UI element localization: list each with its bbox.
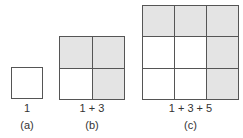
cell-c-r1-c2-shaded: [207, 37, 238, 67]
square-grid-a: [11, 67, 43, 99]
square-grid-c: [142, 5, 239, 100]
cell-c-r0-c1-shaded: [175, 6, 206, 36]
caption-c: (c): [142, 119, 239, 131]
cell-c-r0-c0-shaded: [143, 6, 174, 36]
sum-label-c: 1 + 3 + 5: [142, 102, 239, 114]
cell-c-r0-c2-shaded: [207, 6, 238, 36]
cell-c-r2-c0: [143, 69, 174, 99]
square-grid-b: [59, 36, 125, 100]
cell-c-r1-c0: [143, 37, 174, 67]
sum-label-a: 1: [11, 102, 43, 114]
cell-a-r0-c0: [12, 68, 42, 98]
cell-c-r1-c1: [175, 37, 206, 67]
caption-b: (b): [59, 119, 125, 131]
cell-b-r1-c1-shaded: [93, 69, 125, 100]
cell-b-r0-c0-shaded: [60, 37, 92, 68]
cell-c-r2-c2-shaded: [207, 69, 238, 99]
caption-a: (a): [11, 119, 43, 131]
cell-b-r1-c0: [60, 69, 92, 100]
cell-c-r2-c1: [175, 69, 206, 99]
sum-label-b: 1 + 3: [59, 102, 125, 114]
cell-b-r0-c1-shaded: [93, 37, 125, 68]
